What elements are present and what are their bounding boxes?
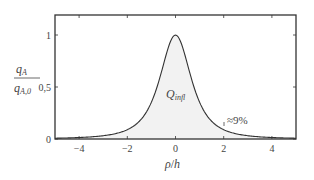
area-fill-q-infl [55, 35, 296, 139]
x-axis-label: ρ/h [164, 157, 180, 171]
y-tick-label: 1 [46, 30, 51, 41]
pct-annotation: ≈9% [227, 114, 248, 126]
y-axis-label: qA qA,0 [14, 62, 40, 96]
y-tick-label: 0 [46, 134, 51, 145]
x-tick-label: −2 [122, 143, 133, 154]
y-label-numerator: qA [16, 62, 27, 77]
x-tick-label: 0 [173, 143, 178, 154]
y-label-denominator: qA,0 [14, 81, 31, 96]
y-tick-label: 0,5 [39, 82, 52, 93]
chart: −4−202400,51 qA qA,0 ρ/h Qinfl ≈9% [0, 0, 314, 180]
x-tick-label: −4 [74, 143, 85, 154]
x-tick-label: 4 [269, 143, 274, 154]
x-tick-label: 2 [221, 143, 226, 154]
